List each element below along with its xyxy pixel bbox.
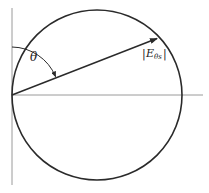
svg-text:|: | <box>163 47 167 61</box>
radiation-pattern-diagram: θ | E θs | <box>0 0 209 193</box>
field-magnitude-label: | E θs | <box>142 47 167 61</box>
svg-text:θs: θs <box>154 53 162 61</box>
field-vector-arrow <box>12 39 157 96</box>
svg-text:E: E <box>145 47 154 60</box>
theta-label: θ <box>30 50 38 64</box>
